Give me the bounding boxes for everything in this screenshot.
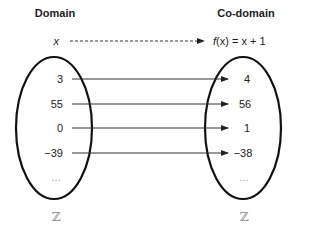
general-output-fx: f(x) = x + 1	[213, 35, 266, 47]
codomain-value-2: 1	[244, 122, 250, 134]
codomain-set-integers: ℤ	[240, 210, 249, 224]
general-input-x: x	[54, 35, 60, 47]
codomain-value-0: 4	[244, 73, 250, 85]
domain-value-3: −39	[44, 147, 63, 159]
codomain-value-3: −38	[234, 147, 253, 159]
domain-heading: Domain	[35, 7, 75, 19]
codomain-ellipsis: …	[239, 172, 249, 183]
domain-ellipsis: …	[51, 172, 61, 183]
domain-value-2: 0	[57, 122, 63, 134]
domain-value-1: 55	[51, 98, 63, 110]
codomain-value-1: 56	[239, 98, 251, 110]
function-expression: (x) = x + 1	[216, 35, 266, 47]
domain-value-0: 3	[57, 73, 63, 85]
domain-set-integers: ℤ	[52, 210, 61, 224]
codomain-heading: Co-domain	[217, 7, 274, 19]
